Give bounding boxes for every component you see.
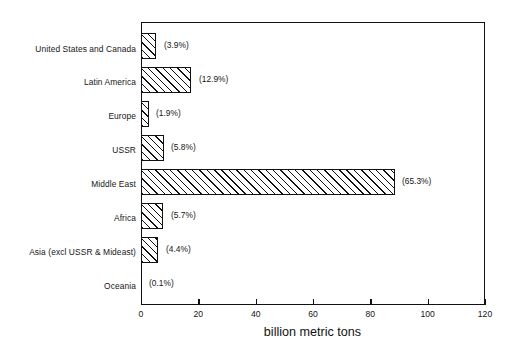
bar-value-label-europe: (1.9%): [156, 109, 181, 118]
category-label-africa: Africa: [0, 214, 136, 223]
bar-asia-excl-ussr-mideast: [141, 237, 158, 263]
category-label-latin-america: Latin America: [0, 78, 136, 87]
x-tick-label-0: 0: [139, 309, 144, 319]
x-axis-title: billion metric tons: [0, 325, 505, 340]
x-tick-mark-0: [141, 299, 142, 305]
bar-value-label-africa: (5.7%): [171, 211, 196, 220]
bar-value-label-ussr: (5.8%): [171, 143, 196, 152]
bar-value-label-united-states-and-canada: (3.9%): [164, 41, 189, 50]
x-tick-label-120: 120: [478, 309, 492, 319]
category-label-middle-east: Middle East: [0, 180, 136, 189]
x-axis-title-text: billion metric tons: [264, 325, 361, 340]
bar-chart: United States and Canada Latin America E…: [0, 0, 505, 352]
category-label-asia-excl-ussr-mideast: Asia (excl USSR & Mideast): [0, 248, 136, 257]
x-tick-mark-80: [370, 299, 371, 305]
bar-europe: [141, 101, 149, 127]
category-label-oceania: Oceania: [0, 282, 136, 291]
x-tick-mark-60: [313, 299, 314, 305]
x-tick-label-20: 20: [194, 309, 204, 319]
bar-value-label-asia-excl-ussr-mideast: (4.4%): [166, 245, 191, 254]
bar-ussr: [141, 135, 164, 161]
bar-united-states-and-canada: [141, 33, 156, 59]
category-label-ussr: USSR: [0, 146, 136, 155]
bar-africa: [141, 203, 163, 229]
x-tick-label-40: 40: [251, 309, 261, 319]
bar-latin-america: [141, 67, 191, 93]
category-label-europe: Europe: [0, 112, 136, 121]
x-tick-mark-20: [198, 299, 199, 305]
bar-value-label-oceania: (0.1%): [149, 279, 174, 288]
bar-value-label-middle-east: (65.3%): [402, 177, 431, 186]
category-axis-labels: United States and Canada Latin America E…: [0, 22, 136, 305]
x-tick-label-100: 100: [421, 309, 435, 319]
x-tick-mark-40: [256, 299, 257, 305]
x-tick-label-80: 80: [366, 309, 376, 319]
bar-middle-east: [141, 169, 395, 195]
bars-layer: (3.9%) (12.9%) (1.9%) (5.8%) (65.3%) (5.…: [141, 22, 485, 305]
x-tick-mark-100: [428, 299, 429, 305]
x-tick-label-60: 60: [308, 309, 318, 319]
bar-value-label-latin-america: (12.9%): [199, 75, 228, 84]
category-label-united-states-and-canada: United States and Canada: [0, 45, 136, 54]
x-tick-mark-120: [485, 299, 486, 305]
bar-oceania: [141, 271, 142, 297]
